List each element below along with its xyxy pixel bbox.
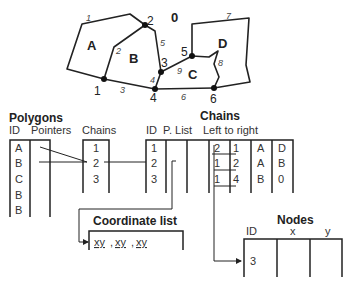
- chain-row-1-to: 1: [233, 142, 239, 154]
- node-6-dot: [211, 85, 217, 91]
- polygon-chain-3: 3: [93, 173, 99, 185]
- nodes-header-id: ID: [246, 225, 257, 237]
- node-5-dot: [189, 53, 195, 59]
- chain-5: [145, 25, 161, 72]
- chains-header-left-to-right: Left to right: [203, 124, 258, 136]
- chain-label-4: 4: [150, 75, 155, 85]
- coordinate-list-title: Coordinate list: [93, 214, 177, 228]
- chain-row-1-from: 2: [214, 142, 220, 154]
- polygon-chain-2: 2: [93, 157, 99, 169]
- polygon-label-c: C: [188, 67, 198, 82]
- polygon-id-b2: B: [15, 189, 22, 201]
- chain-2: [104, 25, 145, 79]
- node-row-1-id: 3: [250, 255, 256, 267]
- coord-sep-1: ,: [110, 236, 113, 248]
- chain-row-3-to: 4: [233, 173, 239, 185]
- polygon-id-b: B: [15, 157, 22, 169]
- polygon-label-a: A: [87, 38, 97, 53]
- chain-row-3-id: 3: [151, 173, 157, 185]
- nodes-title: Nodes: [277, 213, 314, 227]
- polygons-header-id: ID: [9, 124, 20, 136]
- chain-label-5: 5: [160, 38, 166, 48]
- chain-6: [155, 88, 214, 89]
- chain-row-1-id: 1: [151, 142, 157, 154]
- chain-3: [104, 79, 155, 89]
- chain-1: [67, 14, 145, 79]
- outside-label: 0: [171, 10, 178, 25]
- chains-header-id: ID: [146, 124, 157, 136]
- polygon-label-b: B: [129, 51, 138, 66]
- polygon-chain-1: 1: [93, 142, 99, 154]
- chain-row-3-right: 0: [278, 173, 284, 185]
- chain-row-1-right: D: [278, 142, 286, 154]
- node-label-1: 1: [94, 84, 101, 98]
- nodes-table-lines: [244, 239, 342, 277]
- polygon-label-d: D: [218, 36, 227, 51]
- polygons-title: Polygons: [9, 111, 63, 125]
- chain-7: [192, 18, 250, 88]
- nodes-header-y: y: [325, 225, 331, 237]
- node-label-4: 4: [150, 91, 157, 105]
- polygon-id-a: A: [15, 142, 23, 154]
- chain-row-2-id: 2: [151, 157, 157, 169]
- coord-sep-2: ,: [131, 236, 134, 248]
- polygons-header-pointers: Pointers: [31, 124, 72, 136]
- polygon-id-b3: B: [15, 204, 22, 216]
- chain-row-1-left: A: [257, 142, 265, 154]
- chain-label-3: 3: [120, 85, 125, 95]
- chain-label-8: 8: [218, 58, 223, 68]
- nodes-header-x: x: [290, 225, 296, 237]
- node-label-5: 5: [181, 45, 188, 59]
- chain-row-2-right: B: [278, 157, 285, 169]
- chain-row-3-left: B: [257, 173, 264, 185]
- topology-diagram: 1 2 3 4 5 6 1 2 3 4 5 6 7 8 9 A B C D 0 …: [0, 0, 353, 285]
- chain-row-3-from: 1: [214, 173, 220, 185]
- chain-label-1: 1: [86, 13, 91, 23]
- coord-xy-2: xy: [115, 236, 127, 248]
- node-1-dot: [101, 76, 107, 82]
- chain-row-2-left: A: [257, 157, 265, 169]
- node-label-3: 3: [161, 56, 168, 70]
- chain-label-2: 2: [115, 46, 121, 56]
- coord-xy-1: xy: [94, 236, 106, 248]
- chain-row-2-to: 2: [233, 157, 239, 169]
- chain-label-6: 6: [181, 92, 186, 102]
- polygons-header-chains: Chains: [82, 124, 117, 136]
- chains-title: Chains: [200, 109, 240, 123]
- polygon-id-c: C: [15, 173, 23, 185]
- chain-label-9: 9: [177, 66, 182, 76]
- chains-header-plist: P. List: [163, 124, 192, 136]
- chain-row-2-from: 1: [214, 157, 220, 169]
- node-label-2: 2: [147, 14, 154, 28]
- coord-xy-3: xy: [136, 236, 148, 248]
- node-label-6: 6: [210, 92, 217, 106]
